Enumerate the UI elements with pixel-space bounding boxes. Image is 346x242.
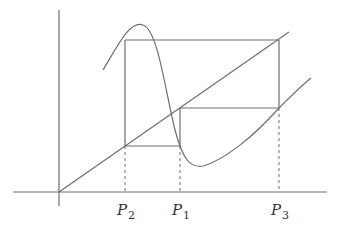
label-p3-sub: 3 — [282, 209, 289, 222]
label-p1-sub: 1 — [183, 209, 190, 222]
label-p2: P 2 — [116, 201, 135, 222]
map-curve — [103, 24, 311, 166]
label-p2-sub: 2 — [128, 209, 135, 222]
label-p1: P 1 — [171, 201, 190, 222]
label-p3-main: P — [270, 201, 282, 219]
diagonal-line — [59, 32, 289, 192]
cobweb-diagram: P 2 P 1 P 3 — [0, 0, 346, 242]
label-p2-main: P — [116, 201, 128, 219]
label-p1-main: P — [171, 201, 183, 219]
label-p3: P 3 — [270, 201, 289, 222]
